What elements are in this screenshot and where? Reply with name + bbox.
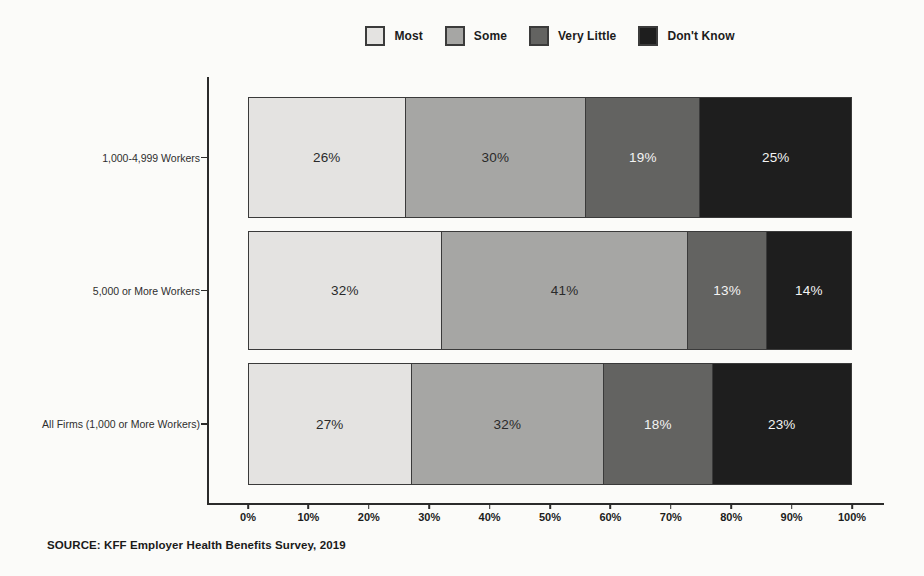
x-tick-label: 0% bbox=[240, 511, 256, 523]
bar-segment-value: 26% bbox=[313, 150, 341, 165]
x-tick bbox=[489, 503, 491, 509]
x-tick bbox=[610, 503, 612, 509]
bar-row-all-firms-1-000-or-more-workers: 27%32%18%23% bbox=[248, 363, 852, 485]
x-tick-label: 70% bbox=[660, 511, 682, 523]
x-tick bbox=[851, 503, 853, 509]
bar-segment-value: 32% bbox=[494, 417, 522, 432]
bar-segment-don-t-know: 23% bbox=[713, 364, 851, 484]
chart-figure: MostSomeVery LittleDon't Know 26%30%19%2… bbox=[0, 0, 924, 576]
x-tick bbox=[670, 503, 672, 509]
y-tick bbox=[201, 423, 208, 425]
x-tick-label: 90% bbox=[781, 511, 803, 523]
bar-segment-value: 25% bbox=[762, 150, 790, 165]
bar-segment-very-little: 13% bbox=[688, 232, 766, 349]
x-tick bbox=[308, 503, 310, 509]
x-tick bbox=[428, 503, 430, 509]
category-label-all-firms-1-000-or-more-workers: All Firms (1,000 or More Workers) bbox=[28, 418, 200, 430]
x-tick bbox=[368, 503, 370, 509]
category-label-1-000-4-999-workers: 1,000-4,999 Workers bbox=[28, 152, 200, 164]
x-tick bbox=[791, 503, 793, 509]
x-tick-label: 60% bbox=[599, 511, 621, 523]
x-tick-label: 80% bbox=[720, 511, 742, 523]
plot-area: 26%30%19%25%32%41%13%14%27%32%18%23% 1,0… bbox=[0, 0, 924, 576]
bar-segment-very-little: 18% bbox=[604, 364, 712, 484]
bar-row-1-000-4-999-workers: 26%30%19%25% bbox=[248, 97, 852, 218]
bar-segment-don-t-know: 14% bbox=[767, 232, 851, 349]
bar-segment-value: 27% bbox=[316, 417, 344, 432]
bar-segment-most: 26% bbox=[249, 98, 406, 217]
bar-segment-most: 27% bbox=[249, 364, 412, 484]
x-tick-label: 40% bbox=[479, 511, 501, 523]
x-tick bbox=[730, 503, 732, 509]
x-tick bbox=[549, 503, 551, 509]
bar-segment-don-t-know: 25% bbox=[700, 98, 851, 217]
bar-segment-value: 41% bbox=[551, 283, 579, 298]
bar-segment-value: 32% bbox=[331, 283, 359, 298]
bar-segment-value: 30% bbox=[482, 150, 510, 165]
x-tick-label: 30% bbox=[418, 511, 440, 523]
category-label-5-000-or-more-workers: 5,000 or More Workers bbox=[28, 285, 200, 297]
bar-segment-value: 13% bbox=[713, 283, 741, 298]
y-tick bbox=[201, 290, 208, 292]
y-tick bbox=[201, 157, 208, 159]
bar-row-5-000-or-more-workers: 32%41%13%14% bbox=[248, 231, 852, 350]
x-tick-label: 10% bbox=[297, 511, 319, 523]
bar-segment-value: 14% bbox=[795, 283, 823, 298]
x-tick bbox=[247, 503, 249, 509]
bar-segment-value: 23% bbox=[768, 417, 796, 432]
x-tick-label: 100% bbox=[838, 511, 866, 523]
x-tick-label: 50% bbox=[539, 511, 561, 523]
bar-segment-some: 30% bbox=[406, 98, 587, 217]
bar-segment-very-little: 19% bbox=[586, 98, 700, 217]
bar-segment-most: 32% bbox=[249, 232, 442, 349]
bar-segment-value: 18% bbox=[644, 417, 672, 432]
source-note: SOURCE: KFF Employer Health Benefits Sur… bbox=[47, 539, 346, 551]
bar-segment-value: 19% bbox=[629, 150, 657, 165]
bar-segment-some: 32% bbox=[412, 364, 605, 484]
x-tick-label: 20% bbox=[358, 511, 380, 523]
bar-segment-some: 41% bbox=[442, 232, 689, 349]
